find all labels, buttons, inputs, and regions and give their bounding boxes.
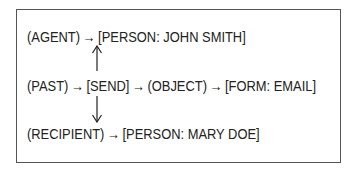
up-arrow-icon: [91, 45, 103, 71]
agent-relation: (AGENT): [27, 28, 80, 45]
right-arrow-icon: →: [207, 77, 225, 94]
recipient-relation: (RECIPIENT): [27, 125, 104, 142]
agent-concept: [PERSON: JOHN SMITH]: [98, 28, 246, 45]
down-arrow-icon: [91, 96, 103, 123]
main-row: (PAST)→[SEND]→(OBJECT)→[FORM: EMAIL]: [27, 78, 316, 94]
recipient-row: (RECIPIENT)→[PERSON: MARY DOE]: [27, 126, 260, 142]
object-relation: (OBJECT): [147, 77, 206, 94]
right-arrow-icon: →: [80, 28, 98, 45]
right-arrow-icon: →: [104, 125, 122, 142]
send-concept: [SEND]: [86, 77, 129, 94]
email-concept: [FORM: EMAIL]: [225, 77, 316, 94]
past-modifier: (PAST): [27, 77, 68, 94]
recipient-concept: [PERSON: MARY DOE]: [122, 125, 259, 142]
right-arrow-icon: →: [129, 77, 147, 94]
agent-row: (AGENT)→[PERSON: JOHN SMITH]: [27, 29, 246, 45]
right-arrow-icon: →: [68, 77, 86, 94]
